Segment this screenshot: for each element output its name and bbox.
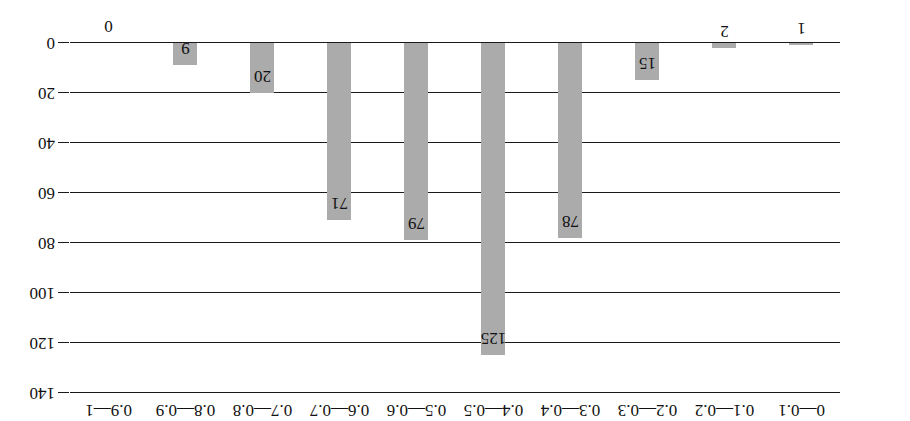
bar	[482, 43, 506, 356]
gridline	[70, 342, 840, 343]
gridline	[70, 192, 840, 193]
histogram-figure: 020406080100120140 12157812579712090 0—0…	[0, 0, 910, 421]
y-tick-mark	[58, 42, 69, 43]
bar-value-label: 71	[331, 196, 348, 213]
y-tick-label: 40	[38, 135, 55, 152]
y-tick-label: 80	[38, 235, 55, 252]
y-tick-label: 0	[47, 35, 56, 52]
y-tick-mark	[58, 242, 69, 243]
gridline	[70, 142, 840, 143]
bar-value-label: 2	[720, 23, 729, 40]
x-tick-label: 0.4—0.5	[464, 402, 524, 419]
bar	[405, 43, 429, 241]
bar-value-label: 9	[181, 41, 190, 58]
y-tick-mark	[58, 292, 69, 293]
x-tick-label: 0.7—0.8	[233, 402, 293, 419]
bar-value-label: 79	[408, 216, 425, 233]
gridline	[70, 92, 840, 93]
y-tick-label: 60	[38, 185, 55, 202]
y-tick-mark	[58, 142, 69, 143]
x-tick-label: 0.6—0.7	[310, 402, 370, 419]
gridline	[70, 292, 840, 293]
plot-area: 020406080100120140 12157812579712090 0—0…	[70, 43, 840, 393]
y-tick-label: 140	[30, 385, 56, 402]
x-tick-label: 0.1—0.2	[695, 402, 755, 419]
bar-value-label: 0	[104, 18, 113, 35]
y-tick-mark	[58, 342, 69, 343]
bar-value-label: 15	[639, 56, 656, 73]
x-tick-label: 0—0.1	[778, 402, 825, 419]
bar-value-label: 78	[562, 213, 579, 230]
y-tick-label: 100	[30, 285, 56, 302]
y-tick-label: 20	[38, 85, 55, 102]
y-tick-mark	[58, 92, 69, 93]
bar	[713, 43, 737, 48]
bar-value-label: 125	[481, 331, 507, 348]
bar	[790, 43, 814, 46]
y-tick-mark	[58, 392, 69, 393]
x-tick-label: 0.8—0.9	[156, 402, 216, 419]
gridline	[70, 392, 840, 393]
x-tick-label: 0.9—1	[85, 402, 132, 419]
bar-value-label: 20	[254, 68, 271, 85]
bar-value-label: 1	[797, 21, 806, 38]
bar	[559, 43, 583, 238]
gridline	[70, 242, 840, 243]
x-tick-label: 0.3—0.4	[541, 402, 601, 419]
x-tick-label: 0.5—0.6	[387, 402, 447, 419]
y-tick-label: 120	[30, 335, 56, 352]
x-tick-label: 0.2—0.3	[618, 402, 678, 419]
y-tick-mark	[58, 192, 69, 193]
